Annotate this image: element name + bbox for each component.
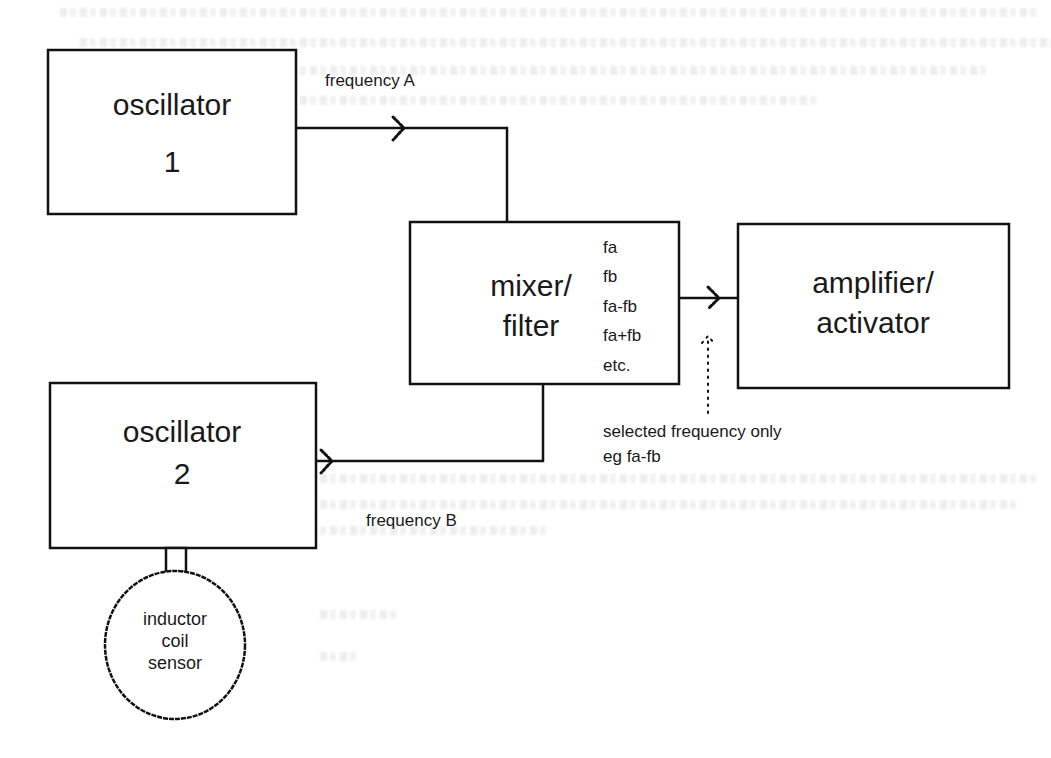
- oscillator-1-label: oscillator: [113, 88, 231, 121]
- frequency-b-label: frequency B: [366, 511, 457, 530]
- mixer-filter-block: mixer/ filter fa fb fa-fb fa+fb etc.: [410, 222, 679, 384]
- sensor-label-coil: coil: [161, 631, 188, 651]
- sensor-connector: [166, 548, 186, 572]
- sensor-label-sensor: sensor: [148, 653, 202, 673]
- sensor-label-inductor: inductor: [143, 609, 207, 629]
- frequency-a-connection: frequency A: [296, 71, 507, 222]
- mixer-output-fb: fb: [603, 267, 617, 286]
- mixer-output-etc: etc.: [603, 356, 630, 375]
- filter-label: filter: [503, 309, 560, 342]
- amplifier-label: amplifier/: [812, 266, 934, 299]
- amplifier-activator-block: amplifier/ activator: [738, 224, 1009, 388]
- mixer-output-fa: fa: [603, 238, 618, 257]
- oscillator-1-number: 1: [164, 145, 181, 178]
- mixer-label: mixer/: [490, 269, 572, 302]
- inductor-coil-sensor: inductor coil sensor: [105, 548, 245, 719]
- block-diagram: oscillator 1 frequency A mixer/ filter f…: [0, 0, 1051, 758]
- oscillator-1-block: oscillator 1: [48, 50, 296, 214]
- mixer-output-fa-plus-fb: fa+fb: [603, 326, 641, 345]
- frequency-a-label: frequency A: [325, 71, 415, 90]
- mixer-output-fa-minus-fb: fa-fb: [603, 297, 637, 316]
- selected-frequency-example: eg fa-fb: [603, 447, 661, 466]
- oscillator-2-label: oscillator: [123, 415, 241, 448]
- selected-frequency-label: selected frequency only: [603, 422, 782, 441]
- frequency-b-connection: frequency B: [316, 384, 543, 530]
- activator-label: activator: [816, 306, 929, 339]
- oscillator-2-number: 2: [174, 457, 191, 490]
- oscillator-2-block: oscillator 2: [50, 383, 316, 548]
